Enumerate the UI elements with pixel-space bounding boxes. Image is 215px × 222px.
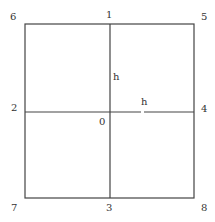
node-label-4: 4 [201,104,207,114]
spacing-label-vertical: h [113,72,119,82]
node-label-6: 6 [10,12,16,22]
node-label-1: 1 [106,10,112,20]
spacing-label-horizontal: h [141,97,147,107]
grid-lines [0,0,215,222]
node-label-7: 7 [11,203,17,213]
node-label-8: 8 [201,203,207,213]
node-label-0: 0 [99,117,105,127]
node-label-5: 5 [201,12,207,22]
node-label-2: 2 [11,103,17,113]
node-label-3: 3 [106,203,112,213]
